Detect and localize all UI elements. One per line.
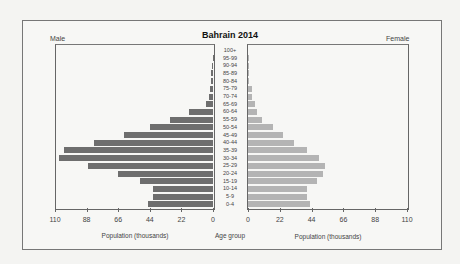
age-group-tick-label: 55-59	[210, 116, 250, 122]
male-bar	[88, 163, 213, 169]
x-tick-label: 22	[169, 216, 193, 223]
age-group-tick-label: 75-79	[210, 85, 250, 91]
x-tick	[407, 208, 408, 212]
female-x-axis-label: Population (thousands)	[268, 233, 388, 240]
x-tick	[375, 208, 376, 212]
age-group-tick-label: 50-54	[210, 124, 250, 130]
female-bar	[248, 194, 307, 200]
male-bar	[64, 147, 213, 153]
x-tick-label: 44	[300, 216, 324, 223]
x-tick-label: 110	[395, 216, 419, 223]
female-bar	[248, 201, 310, 207]
age-group-tick-label: 25-29	[210, 162, 250, 168]
male-bar	[94, 140, 213, 146]
x-tick	[118, 208, 119, 212]
age-group-tick-label: 80-84	[210, 78, 250, 84]
male-x-axis-label: Population (thousands)	[75, 232, 195, 239]
female-label: Female	[386, 35, 409, 42]
age-group-tick-label: 40-44	[210, 139, 250, 145]
female-bar	[248, 132, 283, 138]
age-group-tick-label: 30-34	[210, 155, 250, 161]
x-tick	[181, 208, 182, 212]
age-group-tick-label: 5-9	[210, 193, 250, 199]
x-tick	[312, 208, 313, 212]
male-bar	[148, 201, 213, 207]
x-tick	[280, 208, 281, 212]
female-bar	[248, 163, 325, 169]
female-bar	[248, 178, 317, 184]
x-tick	[150, 208, 151, 212]
age-group-tick-label: 95-99	[210, 55, 250, 61]
age-group-tick-label: 65-69	[210, 101, 250, 107]
age-group-tick-label: 45-49	[210, 132, 250, 138]
x-tick-label: 88	[75, 216, 99, 223]
male-bar	[140, 178, 213, 184]
male-label: Male	[50, 35, 65, 42]
male-bar	[170, 117, 213, 123]
male-bar	[150, 124, 213, 130]
x-tick-label: 66	[106, 216, 130, 223]
female-bar	[248, 147, 307, 153]
male-bar	[124, 132, 213, 138]
male-bar	[153, 194, 213, 200]
x-tick	[87, 208, 88, 212]
female-bar	[248, 117, 262, 123]
age-group-tick-label: 10-14	[210, 185, 250, 191]
female-bar	[248, 155, 319, 161]
age-group-tick-label: 0-4	[210, 201, 250, 207]
x-tick	[213, 208, 214, 212]
female-bar	[248, 171, 323, 177]
x-tick-label: 0	[201, 216, 225, 223]
age-group-label: Age group	[200, 232, 260, 239]
x-tick	[248, 208, 249, 212]
age-group-tick-label: 35-39	[210, 147, 250, 153]
x-tick	[55, 208, 56, 212]
age-group-tick-label: 100+	[210, 47, 250, 53]
age-group-tick-label: 85-89	[210, 70, 250, 76]
age-group-tick-label: 60-64	[210, 108, 250, 114]
female-bar	[248, 140, 294, 146]
female-bar	[248, 186, 307, 192]
age-group-tick-label: 90-94	[210, 62, 250, 68]
x-tick-label: 0	[236, 216, 260, 223]
x-tick-label: 88	[363, 216, 387, 223]
age-group-tick-label: 70-74	[210, 93, 250, 99]
male-bar	[118, 171, 213, 177]
x-tick-label: 44	[138, 216, 162, 223]
female-bar	[248, 124, 273, 130]
x-tick	[343, 208, 344, 212]
age-group-tick-label: 15-19	[210, 178, 250, 184]
male-bar	[59, 155, 213, 161]
male-bar	[153, 186, 213, 192]
x-tick-label: 110	[43, 216, 67, 223]
x-tick-label: 66	[331, 216, 355, 223]
x-tick-label: 22	[268, 216, 292, 223]
age-group-tick-label: 20-24	[210, 170, 250, 176]
